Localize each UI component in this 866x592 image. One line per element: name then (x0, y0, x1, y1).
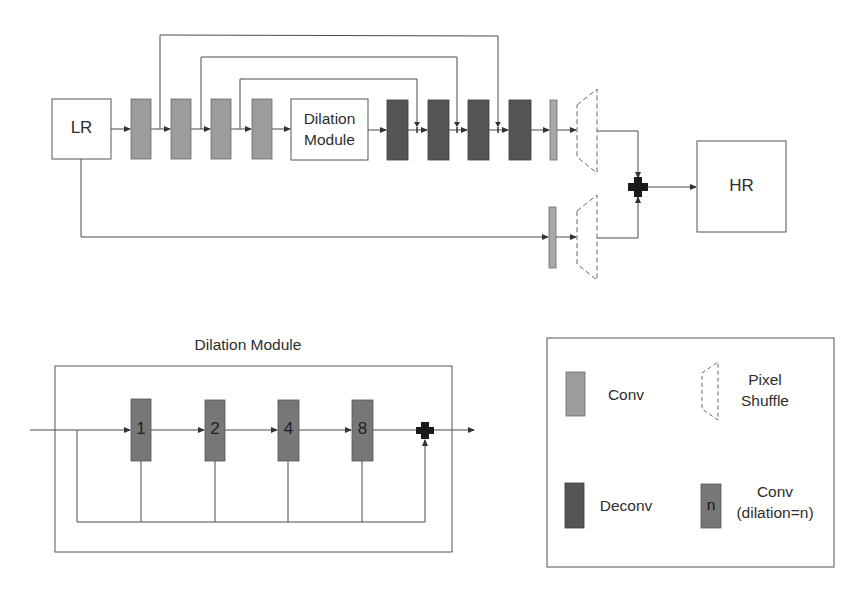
deconv-block-3 (468, 100, 489, 160)
dilation-rate-4: 4 (278, 419, 299, 439)
legend-pixel-shuffle-line1: Pixel (730, 371, 800, 390)
dilation-module-box (291, 99, 368, 160)
legend-dilated-conv-symbol: n (701, 496, 721, 515)
legend-deconv-label: Deconv (591, 497, 661, 516)
legend-dilated-conv-line1: Conv (725, 483, 825, 502)
conv-block-2 (171, 99, 191, 159)
dilation-module-outer-box (55, 366, 452, 552)
dilation-rate-2: 2 (205, 419, 225, 439)
deconv-block-2 (428, 100, 449, 160)
thin-conv-top (550, 100, 557, 160)
lr-label: LR (52, 118, 111, 138)
pixel-shuffle-top (577, 89, 597, 173)
dilation-rate-8: 8 (352, 419, 373, 439)
deconv-block-1 (387, 100, 408, 160)
legend-conv-label: Conv (596, 386, 656, 405)
dilation-module-detail (30, 366, 474, 552)
pixel-shuffle-bottom (577, 195, 597, 280)
deconv-block-4 (509, 100, 531, 160)
hr-label: HR (697, 176, 786, 196)
dilation-module-label-line1: Dilation (291, 110, 368, 129)
legend-dilated-conv-line2: (dilation=n) (725, 504, 825, 523)
conv-block-3 (211, 99, 231, 159)
add-icon-main (628, 177, 648, 197)
thin-conv-bottom (549, 207, 556, 268)
legend-conv-swatch (566, 372, 585, 416)
dilation-module-title: Dilation Module (148, 336, 348, 355)
dilation-rate-1: 1 (131, 419, 151, 439)
global-residual-path (81, 159, 548, 237)
legend-deconv-swatch (565, 483, 584, 528)
dilation-module-label-line2: Module (291, 131, 368, 150)
legend-pixel-shuffle-line2: Shuffle (730, 392, 800, 411)
conv-block-1 (131, 99, 151, 159)
main-network (52, 35, 786, 238)
conv-block-4 (252, 99, 272, 159)
